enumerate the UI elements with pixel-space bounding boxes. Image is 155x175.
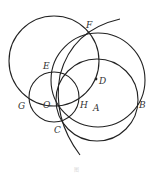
- label-e: E: [42, 61, 50, 71]
- point-d-dot: [95, 78, 98, 81]
- label-b: B: [138, 100, 146, 110]
- figure-caption: 图: [74, 166, 79, 173]
- label-f: F: [85, 20, 93, 30]
- label-c: C: [54, 125, 61, 135]
- label-h: H: [79, 100, 88, 110]
- label-o: O: [43, 100, 51, 110]
- label-a: A: [92, 103, 100, 113]
- label-g: G: [18, 101, 25, 111]
- medium-circle: [56, 59, 138, 141]
- geometry-figure: F E D G O H A B C 图: [0, 0, 155, 175]
- long-arc: [58, 19, 120, 155]
- label-d: D: [98, 76, 106, 86]
